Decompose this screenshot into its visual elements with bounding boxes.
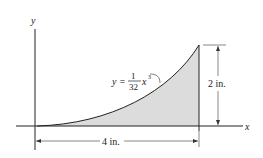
- area-diagram: y x y = 1 32 x 3 2 in. 4 in.: [0, 0, 263, 158]
- equation-variable: x: [141, 76, 147, 87]
- equation-lhs: y =: [111, 76, 126, 87]
- width-label: 4 in.: [102, 136, 120, 147]
- y-axis-label: y: [30, 15, 36, 26]
- equation-numerator: 1: [131, 71, 136, 81]
- x-axis-label: x: [244, 121, 250, 132]
- arrow-down-icon: [216, 120, 220, 125]
- arrow-up-icon: [216, 46, 220, 51]
- arrow-left-icon: [36, 139, 41, 143]
- arrow-right-icon: [193, 139, 198, 143]
- height-label: 2 in.: [208, 78, 226, 89]
- equation-denominator: 32: [129, 82, 138, 92]
- equation-exponent: 3: [148, 74, 151, 80]
- equation-leader: [150, 74, 160, 83]
